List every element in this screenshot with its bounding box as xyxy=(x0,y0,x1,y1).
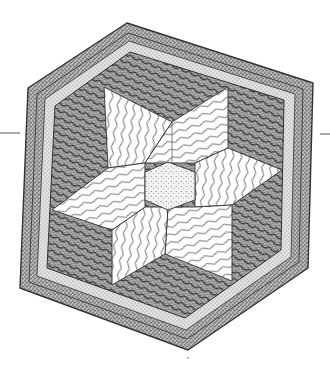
star-center-hexagon xyxy=(145,162,195,210)
stray-dot xyxy=(187,357,189,359)
hex-star-quilt-illustration xyxy=(0,0,330,374)
illustration-canvas xyxy=(0,0,330,374)
